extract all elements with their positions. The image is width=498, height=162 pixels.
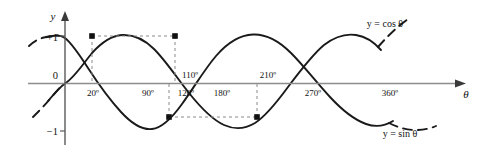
x-tick-label-270: 270º: [305, 88, 322, 98]
graph-canvas: y θ +1 0 −1 20º 90º 120º 180º 270º 360º …: [0, 0, 498, 162]
sin-curve-label: y = sin θ: [383, 128, 418, 139]
marked-points-group: [89, 33, 260, 120]
x-axis-arrowhead: [455, 80, 466, 88]
marked-point-110deg: [172, 33, 178, 39]
x-axis-label: θ: [463, 88, 469, 100]
marked-point-120deg: [166, 114, 172, 120]
x-tick-label-120: 120º: [178, 88, 195, 98]
marked-point-20deg: [89, 33, 95, 39]
marked-point-210deg: [254, 114, 260, 120]
x-tick-label-110: 110º: [182, 70, 198, 80]
cos-curve-label: y = cos θ: [367, 18, 403, 29]
y-axis-label: y: [50, 10, 56, 22]
y-label-minus-one: −1: [47, 126, 58, 137]
x-tick-label-90: 90º: [142, 88, 154, 98]
x-tick-label-360: 360º: [382, 88, 399, 98]
guide-lines-group: [92, 36, 257, 117]
y-label-zero: 0: [53, 70, 58, 81]
y-axis-arrowhead: [61, 11, 69, 21]
x-tick-label-20: 20º: [87, 88, 99, 98]
x-tick-label-180: 180º: [214, 88, 231, 98]
trig-graph-figure: y θ +1 0 −1 20º 90º 120º 180º 270º 360º …: [0, 0, 498, 162]
x-tick-label-210: 210º: [260, 70, 277, 80]
cos-curve: [46, 34, 393, 129]
y-label-plus-one: +1: [47, 32, 58, 43]
